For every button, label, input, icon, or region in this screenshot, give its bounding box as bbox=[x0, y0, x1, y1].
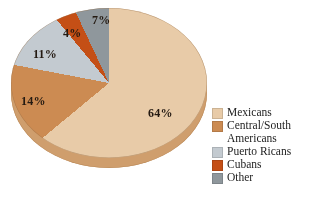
legend-swatch-icon bbox=[212, 173, 223, 184]
slice-label-mexicans: 64% bbox=[148, 106, 173, 121]
legend-item-label: Cubans bbox=[227, 158, 262, 171]
slice-label-central-south-americans: 14% bbox=[21, 94, 46, 109]
legend-item-label: Puerto Ricans bbox=[227, 145, 291, 158]
slice-label-puerto-ricans: 11% bbox=[33, 47, 57, 62]
legend-item-cubans[interactable]: Cubans bbox=[212, 158, 319, 171]
legend-item-label: Mexicans bbox=[227, 106, 272, 119]
legend-swatch-icon bbox=[212, 147, 223, 158]
legend-item-puerto-ricans[interactable]: Puerto Ricans bbox=[212, 145, 319, 158]
pie-chart-figure: 64% 14% 11% 4% 7% Mexicans Central/South… bbox=[0, 0, 319, 204]
slice-label-other: 7% bbox=[92, 13, 110, 28]
legend-swatch-icon bbox=[212, 121, 223, 132]
legend-item-central-south-americans[interactable]: Central/South Americans bbox=[212, 119, 319, 145]
slice-label-cubans: 4% bbox=[63, 26, 81, 41]
pie-chart-area: 64% 14% 11% 4% 7% bbox=[0, 0, 215, 204]
pie-slices[interactable] bbox=[11, 8, 207, 158]
legend-item-mexicans[interactable]: Mexicans bbox=[212, 106, 319, 119]
legend-item-label: Central/South Americans bbox=[227, 119, 291, 145]
legend-swatch-icon bbox=[212, 108, 223, 119]
legend-item-label: Other bbox=[227, 171, 253, 184]
legend-swatch-icon bbox=[212, 160, 223, 171]
legend-item-other[interactable]: Other bbox=[212, 171, 319, 184]
chart-legend: Mexicans Central/South Americans Puerto … bbox=[212, 106, 319, 184]
